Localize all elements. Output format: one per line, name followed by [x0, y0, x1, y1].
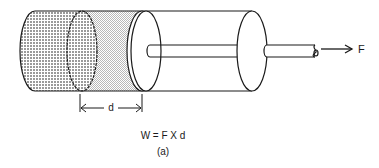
work-equation: W = F X d — [141, 130, 186, 141]
force-arrow — [321, 45, 352, 53]
piston-work-diagram: F d W = F X d (a) — [0, 0, 379, 168]
distance-label: d — [108, 102, 114, 113]
piston — [127, 11, 161, 91]
piston-rod — [147, 45, 318, 57]
initial-gas-region — [20, 11, 97, 91]
force-label: F — [358, 43, 365, 55]
figure-caption: (a) — [157, 146, 169, 157]
